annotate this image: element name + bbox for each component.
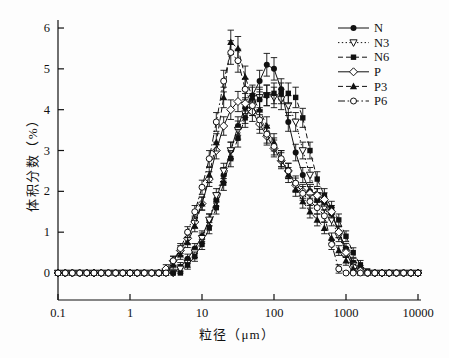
filled-circle-marker [300, 172, 306, 178]
filled-square-marker [170, 270, 175, 275]
open-circle-marker [264, 131, 270, 137]
open-circle-marker [285, 168, 291, 174]
open-circle-marker [321, 213, 327, 219]
open-circle-marker [386, 270, 392, 276]
open-diamond-marker [220, 122, 228, 130]
y-tick-label: 2 [44, 184, 50, 198]
open-circle-marker [185, 229, 191, 235]
open-circle-marker [314, 205, 320, 211]
filled-square-marker [214, 205, 219, 210]
filled-circle-marker [264, 62, 270, 68]
open-circle-marker [69, 270, 75, 276]
open-circle-marker [98, 270, 104, 276]
open-circle-marker [120, 270, 126, 276]
legend-item-P3: P3 [338, 80, 387, 94]
open-circle-marker [249, 103, 255, 109]
open-circle-marker [293, 180, 299, 186]
y-tick-label: 1 [44, 225, 50, 239]
filled-square-marker [343, 234, 348, 239]
x-tick-label: 10000 [402, 306, 433, 320]
open-circle-marker [307, 199, 313, 205]
open-circle-marker [163, 270, 169, 276]
filled-square-marker [192, 254, 197, 259]
y-axis-label: 体积分数（%） [22, 112, 41, 211]
filled-triangle-up-marker [350, 83, 357, 90]
filled-square-marker [286, 91, 291, 96]
open-circle-marker [55, 270, 61, 276]
filled-square-marker [293, 95, 298, 100]
open-circle-marker [199, 184, 205, 190]
y-tick-label: 0 [44, 266, 50, 280]
open-circle-marker [393, 270, 399, 276]
open-circle-marker [401, 270, 407, 276]
open-circle-marker [156, 270, 162, 276]
open-circle-marker [127, 270, 133, 276]
x-axis-label: 粒径（μm） [199, 324, 274, 343]
filled-square-marker [264, 93, 269, 98]
filled-triangle-up-marker [206, 171, 213, 178]
filled-circle-marker [351, 25, 357, 31]
open-circle-marker [408, 270, 414, 276]
legend-item-P: P [338, 65, 381, 79]
open-triangle-down-marker [292, 119, 299, 126]
filled-square-marker [279, 91, 284, 96]
open-circle-marker [365, 270, 371, 276]
open-circle-marker [105, 270, 111, 276]
legend-label: P6 [374, 94, 387, 108]
filled-square-marker [185, 262, 190, 267]
legend-label: P [374, 65, 381, 79]
filled-square-marker [178, 270, 183, 275]
legend-label: N6 [374, 50, 389, 64]
filled-square-marker [307, 148, 312, 153]
open-circle-marker [343, 270, 349, 276]
open-circle-marker [329, 241, 335, 247]
filled-circle-marker [285, 119, 291, 125]
y-tick-label: 6 [44, 21, 50, 35]
filled-circle-marker [293, 150, 299, 156]
open-circle-marker [235, 58, 241, 64]
filled-square-marker [242, 115, 247, 120]
open-circle-marker [77, 270, 83, 276]
open-triangle-down-marker [299, 148, 306, 155]
filled-circle-marker [271, 66, 277, 72]
open-circle-marker [415, 270, 421, 276]
filled-square-marker [300, 115, 305, 120]
open-circle-marker [192, 209, 198, 215]
open-circle-marker [351, 98, 357, 104]
open-circle-marker [134, 270, 140, 276]
filled-triangle-up-marker [335, 247, 342, 254]
open-circle-marker [177, 246, 183, 252]
filled-circle-marker [257, 78, 263, 84]
open-circle-marker [149, 270, 155, 276]
open-circle-marker [170, 258, 176, 264]
legend: NN3N6PP3P6 [338, 21, 389, 108]
open-circle-marker [350, 270, 356, 276]
particle-size-distribution-figure: 0.11101001000100000123456NN3N6PP3P6 体积分数… [0, 0, 449, 358]
legend-item-N: N [338, 21, 383, 35]
filled-square-marker [207, 225, 212, 230]
y-tick-label: 4 [44, 103, 51, 117]
series-N3 [54, 85, 421, 277]
filled-square-marker [235, 136, 240, 141]
open-circle-marker [357, 270, 363, 276]
legend-item-P6: P6 [338, 94, 387, 108]
x-tick-label: 1 [127, 306, 133, 320]
filled-square-marker [314, 176, 319, 181]
filled-square-marker [271, 91, 276, 96]
filled-square-marker [221, 180, 226, 185]
legend-label: N3 [374, 36, 389, 50]
open-circle-marker [221, 78, 227, 84]
legend-item-N3: N3 [338, 36, 389, 50]
open-circle-marker [271, 143, 277, 149]
filled-square-marker [336, 217, 341, 222]
open-circle-marker [213, 119, 219, 125]
open-circle-marker [278, 156, 284, 162]
x-tick-label: 0.1 [50, 306, 66, 320]
open-circle-marker [62, 270, 68, 276]
x-tick-label: 10 [196, 306, 209, 320]
legend-label: P3 [374, 80, 387, 94]
open-circle-marker [206, 156, 212, 162]
open-circle-marker [91, 270, 97, 276]
x-tick-label: 1000 [334, 306, 359, 320]
open-circle-marker [84, 270, 90, 276]
